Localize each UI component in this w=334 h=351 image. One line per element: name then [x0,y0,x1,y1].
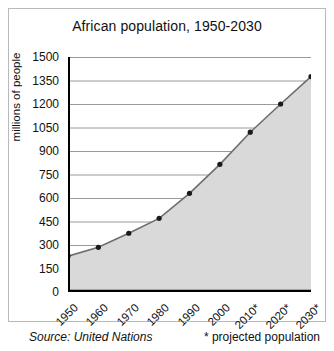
chart-footer: Source: United Nations * projected popul… [0,330,334,351]
y-tick-label: 1050 [19,121,59,135]
chart-plot-svg [68,57,311,292]
y-tick-label: 1500 [19,50,59,64]
data-point [248,130,253,135]
data-point [187,191,192,196]
data-point [96,245,101,250]
y-tick-label: 750 [19,168,59,182]
y-tick-label: 150 [19,262,59,276]
data-point [217,162,222,167]
source-note: Source: United Nations [29,330,152,344]
chart-title: African population, 1950-2030 [0,18,334,34]
plot-area: millions of people 015030045060075090010… [68,57,311,292]
y-tick-label: 1200 [19,97,59,111]
y-tick-label: 1350 [19,74,59,88]
data-point [157,216,162,221]
y-tick-label: 600 [19,191,59,205]
projection-note: * projected population [204,330,320,344]
y-tick-label: 900 [19,144,59,158]
chart-figure: African population, 1950-2030 millions o… [0,0,334,351]
y-tick-label: 450 [19,215,59,229]
y-tick-label: 0 [19,285,59,299]
y-tick-label: 300 [19,238,59,252]
data-point [278,101,283,106]
data-point [126,231,131,236]
